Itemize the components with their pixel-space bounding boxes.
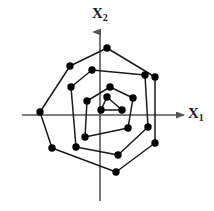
polygon-contours-plot [0,0,214,211]
x-axis-label: X1 [188,106,204,121]
y-axis-label: X2 [92,6,108,21]
x-axis-label-text: X [188,105,199,121]
data-point [118,106,125,113]
data-point [72,143,79,150]
data-point [112,168,119,175]
contour-innermost-triangle [97,93,125,113]
data-series-layer [36,44,158,175]
data-point [81,133,88,140]
figure-container: X2 X1 [0,0,214,211]
data-point [114,151,121,158]
data-point [88,66,95,73]
data-point [103,44,110,51]
contour-middle-contour [67,66,151,158]
data-point [83,97,90,104]
axes-group [22,32,184,201]
data-point [141,71,148,78]
contour-path [71,70,148,155]
x-axis-label-subscript: 1 [199,112,204,123]
data-point [66,62,73,69]
data-point [144,123,151,130]
contour-inner-contour [81,83,136,140]
data-point [151,73,158,80]
data-point [67,83,74,90]
data-point [48,144,55,151]
data-point [103,93,110,100]
y-axis-label-subscript: 2 [103,12,108,23]
data-point [97,106,104,113]
y-axis-label-text: X [92,5,103,21]
data-point [36,108,43,115]
data-point [106,83,113,90]
data-point [124,124,131,131]
data-point [151,139,158,146]
data-point [129,94,136,101]
